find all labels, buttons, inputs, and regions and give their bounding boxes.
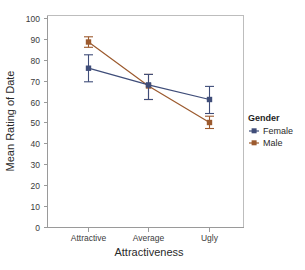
y-tick-label-50: 50 [31, 118, 41, 128]
chart-figure: 100 90 80 70 60 50 40 30 20 10 0 Attract… [0, 0, 305, 270]
x-tick-label-average: Average [133, 233, 165, 243]
y-tick-label-70: 70 [31, 77, 41, 87]
y-tick-label-20: 20 [31, 181, 41, 191]
legend-marker-male [252, 140, 257, 145]
y-tick-label-100: 100 [26, 14, 40, 24]
y-tick-label-30: 30 [31, 160, 41, 170]
x-tick-label-attractive: Attractive [71, 233, 107, 243]
legend-label-male: Male [263, 138, 283, 148]
legend: Gender Female Male [248, 113, 293, 148]
plot-frame [48, 16, 244, 228]
y-tick-label-60: 60 [31, 98, 41, 108]
y-tick-label-40: 40 [31, 139, 41, 149]
y-axis-title: Mean Rating of Date [4, 71, 16, 172]
legend-item-female[interactable]: Female [249, 126, 293, 136]
legend-marker-female [252, 128, 257, 133]
y-tick-label-90: 90 [31, 35, 41, 45]
y-axis-ticks [44, 19, 48, 228]
legend-title: Gender [248, 113, 280, 123]
line-chart: 100 90 80 70 60 50 40 30 20 10 0 Attract… [0, 0, 305, 270]
x-tick-label-ugly: Ugly [201, 233, 219, 243]
x-axis-title: Attractiveness [114, 246, 184, 258]
y-tick-label-0: 0 [35, 223, 40, 233]
series-female [84, 55, 214, 114]
y-tick-label-80: 80 [31, 56, 41, 66]
legend-item-male[interactable]: Male [249, 138, 283, 148]
legend-label-female: Female [263, 126, 293, 136]
x-axis-ticks [89, 228, 210, 232]
y-tick-label-10: 10 [31, 202, 41, 212]
